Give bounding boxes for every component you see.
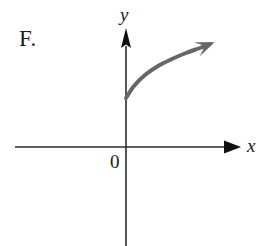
x-axis-label: x [247,136,255,155]
origin-label: 0 [110,152,120,171]
y-axis-arrowhead [121,28,131,48]
function-curve [126,44,210,98]
x-axis-arrowhead [224,141,241,154]
figure-container: F. y x 0 [0,0,269,246]
y-axis-label: y [120,5,128,24]
coordinate-plane-graphic [0,0,269,246]
figure-choice-label: F. [19,27,37,50]
